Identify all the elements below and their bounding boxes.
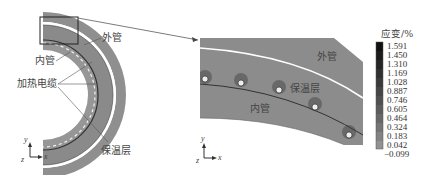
colorbar-title: 应变/%	[381, 26, 413, 40]
label-inner-pipe-left: 内管	[35, 56, 55, 66]
colorbar-tick: −0.099	[384, 150, 409, 159]
axis-x-left: x	[44, 152, 48, 161]
axis-y-left: y	[24, 135, 28, 144]
figure-graphics	[0, 0, 427, 175]
axis-z-left: z	[21, 155, 24, 164]
right-magnified-section	[198, 38, 363, 160]
label-insulation-right: 保温层	[290, 84, 320, 94]
label-insulation-left: 保温层	[101, 146, 131, 156]
axis-x-right: x	[218, 153, 222, 162]
label-heating-cable-left: 加热电缆	[17, 79, 57, 89]
label-inner-pipe-right: 内管	[250, 104, 270, 114]
label-outer-pipe-right: 外管	[317, 52, 337, 62]
axis-y-right: y	[201, 134, 205, 143]
colorbar	[376, 42, 383, 149]
axis-z-right: z	[196, 156, 199, 165]
label-outer-pipe-left: 外管	[102, 33, 122, 43]
